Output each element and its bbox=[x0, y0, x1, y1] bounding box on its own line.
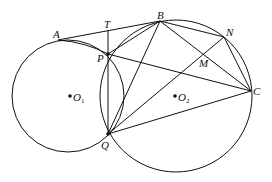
label-n: N bbox=[225, 26, 234, 38]
segment-pc bbox=[108, 54, 251, 91]
label-q: Q bbox=[101, 139, 109, 151]
geometry-diagram: A T B N P M C Q O1 O2 bbox=[0, 0, 272, 182]
segment-qn bbox=[108, 37, 224, 134]
label-o2: O2 bbox=[178, 91, 190, 105]
label-p: P bbox=[96, 52, 104, 64]
label-c: C bbox=[253, 85, 261, 97]
label-b: B bbox=[157, 9, 164, 21]
segment-nc bbox=[224, 37, 251, 91]
label-a: A bbox=[52, 28, 60, 40]
center-o1-dot bbox=[68, 94, 72, 98]
label-t: T bbox=[104, 18, 111, 30]
point-p-dot bbox=[106, 52, 110, 56]
point-q-dot bbox=[106, 132, 110, 136]
label-m: M bbox=[198, 57, 209, 69]
center-o2-dot bbox=[173, 94, 177, 98]
segment-bc bbox=[160, 21, 251, 91]
label-o1: O1 bbox=[73, 91, 85, 105]
